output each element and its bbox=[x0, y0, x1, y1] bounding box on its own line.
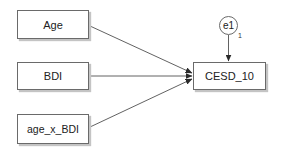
path-diagram-canvas: Age BDI age_x_BDI CESD_10 e1 1 bbox=[0, 0, 281, 154]
variable-label-bdi: BDI bbox=[44, 70, 62, 82]
variable-label-cesd-10: CESD_10 bbox=[205, 70, 254, 82]
variable-label-age: Age bbox=[43, 19, 63, 31]
path-age-to-cesd bbox=[90, 26, 192, 73]
error-term-label: e1 bbox=[223, 20, 234, 31]
path-agebdi-to-cesd bbox=[90, 79, 192, 127]
variable-box-age[interactable]: Age bbox=[17, 10, 89, 39]
variable-box-cesd-10[interactable]: CESD_10 bbox=[193, 62, 266, 90]
variable-label-age-x-bdi: age_x_BDI bbox=[27, 123, 79, 135]
error-term-e1[interactable]: e1 bbox=[219, 16, 238, 35]
error-path-weight: 1 bbox=[238, 32, 242, 39]
variable-box-age-x-bdi[interactable]: age_x_BDI bbox=[17, 114, 89, 144]
variable-box-bdi[interactable]: BDI bbox=[17, 62, 89, 90]
